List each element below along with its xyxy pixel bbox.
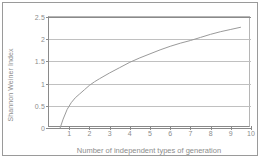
- x-tick-mark: [89, 126, 90, 130]
- x-tick-mark: [190, 126, 191, 130]
- x-tick-mark: [231, 126, 232, 130]
- x-tick-mark: [110, 126, 111, 130]
- x-tick-label: 9: [229, 130, 233, 137]
- x-tick-label: 8: [209, 130, 213, 137]
- y-tick-mark: [46, 84, 49, 85]
- x-tick-mark: [170, 126, 171, 130]
- x-tick-label: 6: [168, 130, 172, 137]
- y-axis-title-container: Shannon Weiner Index: [8, 17, 20, 129]
- x-tick-mark: [69, 126, 70, 130]
- y-tick-label: 1: [41, 80, 45, 87]
- x-tick-label: 10: [247, 130, 255, 137]
- x-tick-label: 2: [87, 130, 91, 137]
- x-tick-mark: [130, 126, 131, 130]
- y-tick-label: 2.5: [35, 14, 45, 21]
- y-tick-label: 0.5: [35, 102, 45, 109]
- y-tick-mark: [46, 106, 49, 107]
- data-curve-layer: [49, 17, 251, 128]
- x-tick-mark: [211, 126, 212, 130]
- y-tick-label: 1.5: [35, 58, 45, 65]
- x-tick-mark: [150, 126, 151, 130]
- plot-area: 00.511.522.5 12345678910: [48, 16, 250, 127]
- chart-frame: Shannon Weiner Index 00.511.522.5 123456…: [2, 2, 258, 156]
- x-tick-label: 4: [128, 130, 132, 137]
- x-tick-label: 5: [148, 130, 152, 137]
- series-line-shannon-weiner-index: [60, 27, 241, 128]
- x-tick-label: 1: [67, 130, 71, 137]
- y-tick-mark: [46, 39, 49, 40]
- x-axis-title: Number of independent types of generatio…: [48, 146, 250, 155]
- y-tick-mark: [46, 61, 49, 62]
- y-tick-mark: [46, 17, 49, 18]
- x-tick-label: 7: [188, 130, 192, 137]
- y-tick-mark: [46, 128, 49, 129]
- y-tick-label: 2: [41, 36, 45, 43]
- x-tick-label: 3: [108, 130, 112, 137]
- y-axis-title: Shannon Weiner Index: [7, 29, 19, 141]
- y-tick-label: 0: [41, 125, 45, 132]
- x-tick-mark: [251, 126, 252, 130]
